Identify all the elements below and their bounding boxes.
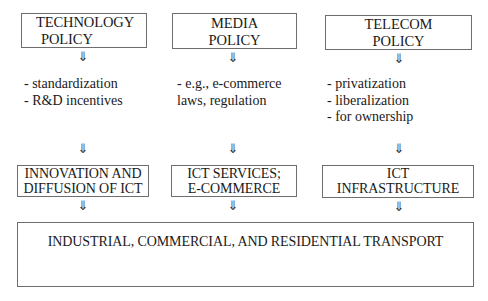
technology-policy-box: TECHNOLOGY POLICY — [21, 13, 147, 48]
transport-title: INDUSTRIAL, COMMERCIAL, AND RESIDENTIAL … — [18, 233, 473, 250]
transport-outcome-box: INDUSTRIAL, COMMERCIAL, AND RESIDENTIAL … — [17, 222, 474, 287]
down-arrow-icon: ⇓ — [389, 142, 409, 156]
media-policy-title-line-1: MEDIA — [173, 15, 296, 32]
technology-policy-title-line-1: TECHNOLOGY — [36, 14, 146, 31]
innovation-diffusion-box: INNOVATION AND DIFFUSION OF ICT — [17, 165, 149, 197]
innovation-title-line-2: DIFFUSION OF ICT — [18, 181, 148, 196]
down-arrow-icon: ⇓ — [223, 199, 243, 213]
down-arrow-icon: ⇓ — [389, 200, 409, 214]
media-policy-measures: - e.g., e-commerce laws, regulation — [177, 76, 282, 109]
ict-services-title-line-1: ICT SERVICES; — [172, 166, 296, 181]
measure-item: laws, regulation — [177, 93, 282, 110]
ict-infrastructure-title-line-1: ICT — [323, 166, 473, 181]
media-policy-box: MEDIA POLICY — [172, 13, 297, 49]
down-arrow-icon: ⇓ — [389, 52, 409, 66]
ict-infrastructure-box: ICT INFRASTRUCTURE — [322, 165, 474, 198]
telecom-policy-measures: - privatization - liberalization - for o… — [327, 76, 413, 126]
down-arrow-icon: ⇓ — [223, 142, 243, 156]
down-arrow-icon: ⇓ — [73, 50, 93, 64]
technology-policy-title-line-2: POLICY — [36, 31, 146, 48]
media-policy-title-line-2: POLICY — [173, 32, 296, 49]
ict-infrastructure-title-line-2: INFRASTRUCTURE — [323, 181, 473, 196]
telecom-policy-title-line-1: TELECOM — [326, 16, 471, 33]
telecom-policy-title-line-2: POLICY — [326, 33, 471, 50]
measure-item: - privatization — [327, 76, 413, 93]
measure-item: - e.g., e-commerce — [177, 76, 282, 93]
down-arrow-icon: ⇓ — [223, 51, 243, 65]
innovation-title-line-1: INNOVATION AND — [18, 166, 148, 181]
measure-item: - standardization — [24, 76, 123, 93]
measure-item: - R&D incentives — [24, 93, 123, 110]
ict-services-box: ICT SERVICES; E-COMMERCE — [171, 165, 297, 197]
telecom-policy-box: TELECOM POLICY — [325, 15, 472, 50]
technology-policy-measures: - standardization - R&D incentives — [24, 76, 123, 109]
down-arrow-icon: ⇓ — [73, 142, 93, 156]
measure-item: - for ownership — [327, 109, 413, 126]
down-arrow-icon: ⇓ — [73, 199, 93, 213]
ict-services-title-line-2: E-COMMERCE — [172, 181, 296, 196]
measure-item: - liberalization — [327, 93, 413, 110]
